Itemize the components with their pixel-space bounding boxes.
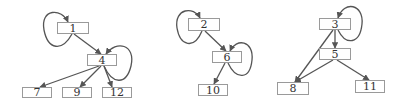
node-8: 8 (277, 82, 309, 95)
node-1: 1 (57, 22, 89, 34)
edge-1-4 (74, 34, 101, 54)
node-11: 11 (355, 80, 385, 93)
node-2: 2 (188, 18, 220, 31)
node-10: 10 (198, 84, 228, 96)
node-6: 6 (212, 51, 242, 63)
edge-6-10 (214, 63, 225, 84)
node-9: 9 (62, 87, 92, 98)
edge-5-8 (295, 60, 333, 82)
edge-2-6 (205, 31, 226, 51)
node-7: 7 (22, 87, 52, 98)
node-3: 3 (319, 18, 351, 30)
edge-5-11 (337, 60, 369, 80)
node-5: 5 (319, 48, 351, 60)
node-4: 4 (87, 54, 117, 66)
node-12: 12 (102, 87, 132, 98)
